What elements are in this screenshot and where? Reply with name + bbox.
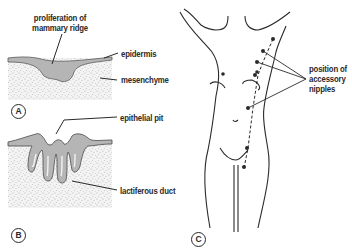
panel-c-marker: C	[191, 232, 206, 247]
panel-b-marker: B	[11, 228, 26, 243]
panel-b-tissue	[8, 134, 112, 208]
label-mesenchyme: mesenchyme	[121, 75, 169, 85]
label-proliferation-line2: mammary ridge	[32, 23, 88, 33]
panel-c-body	[180, 9, 290, 232]
label-lactiferous-duct: lactiferous duct	[120, 186, 175, 196]
diagram-canvas	[0, 0, 352, 250]
panel-a-marker: A	[11, 104, 26, 119]
panel-a-tissue	[8, 57, 112, 100]
label-accessory-line3: nipples	[309, 84, 347, 94]
label-epidermis: epidermis	[121, 49, 156, 59]
label-proliferation: proliferation of mammary ridge	[32, 13, 88, 33]
label-epithelial-pit: epithelial pit	[120, 113, 163, 123]
label-accessory-nipples: position of accessory nipples	[309, 64, 347, 94]
